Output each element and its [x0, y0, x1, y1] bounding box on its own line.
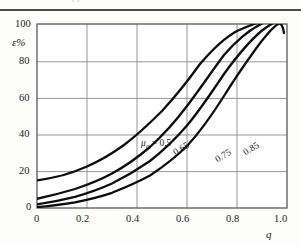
y-tick-40: 40	[19, 128, 30, 139]
y-tick-20: 20	[19, 165, 30, 176]
x-tick-0: 0	[34, 213, 39, 224]
chart-plot-area	[0, 0, 301, 246]
curve-label-mu-0-50: μ0 = 0.5	[141, 138, 171, 151]
y-axis-label: ε%	[12, 36, 26, 48]
curve-label-mu-0-50-value: = 0.5	[149, 138, 171, 148]
plot-background	[37, 24, 287, 208]
x-tick-0-8: 0.8	[226, 213, 239, 224]
x-tick-0-2: 0.2	[76, 213, 89, 224]
x-tick-1-0: 1.0	[274, 213, 287, 224]
y-tick-0: 0	[26, 201, 31, 212]
x-axis-label: q	[266, 228, 272, 240]
x-tick-0-4: 0.4	[126, 213, 139, 224]
x-tick-0-6: 0.6	[176, 213, 189, 224]
y-tick-60: 60	[19, 92, 30, 103]
y-tick-100: 100	[15, 18, 31, 29]
figure-container: μ₀ = 0.5 · 0.65 · 0.75 · 0.85 100 80	[0, 0, 301, 246]
y-tick-80: 80	[19, 55, 30, 66]
